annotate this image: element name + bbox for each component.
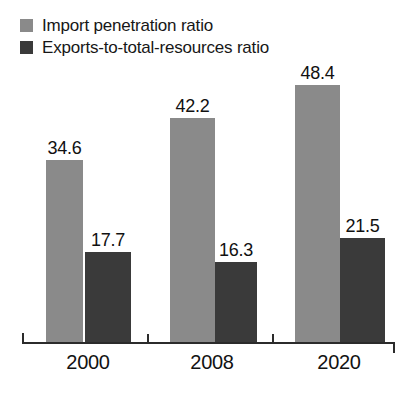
x-axis-line [22, 342, 395, 344]
x-axis-start-cap [22, 333, 24, 343]
x-axis-end-cap [393, 343, 395, 353]
plot-area: 34.6 17.7 42.2 16.3 48.4 21.5 [0, 0, 404, 393]
bar-value-label: 21.5 [346, 217, 380, 235]
bar-value-label: 34.6 [48, 139, 82, 157]
bar-2008-import-penetration-ratio: 42.2 [170, 118, 215, 343]
bar-value-label: 48.4 [301, 64, 335, 82]
bar-2000-import-penetration-ratio: 34.6 [46, 160, 83, 343]
x-axis-tick-1 [147, 334, 149, 343]
bar-value-label: 16.3 [219, 241, 253, 259]
bar-2008-exports-to-total-resources-ratio: 16.3 [215, 262, 257, 343]
x-axis-tick-2 [272, 334, 274, 343]
bar-value-label: 42.2 [176, 97, 210, 115]
bar-2020-exports-to-total-resources-ratio: 21.5 [340, 238, 385, 343]
x-axis-label-2000: 2000 [66, 352, 109, 372]
grouped-bar-chart: Import penetration ratio Exports-to-tota… [0, 0, 404, 393]
bar-2020-import-penetration-ratio: 48.4 [295, 85, 340, 343]
x-axis-label-2008: 2008 [190, 352, 233, 372]
bar-value-label: 17.7 [91, 231, 125, 249]
bar-2000-exports-to-total-resources-ratio: 17.7 [85, 252, 131, 343]
x-axis-label-2020: 2020 [317, 352, 360, 372]
